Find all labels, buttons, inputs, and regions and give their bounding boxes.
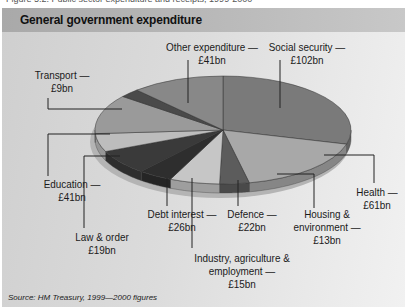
- label-law-order: Law & order£19bn: [66, 231, 138, 257]
- label-debt-interest: Debt interest —£26bn: [142, 208, 223, 234]
- label-other: Other expenditure —£41bn: [158, 41, 266, 67]
- chart-panel: General government expenditure Other exp…: [2, 8, 405, 307]
- slice-side-housing: [220, 183, 250, 193]
- label-health: Health —£61bn: [346, 186, 405, 212]
- figure-caption-text: Figure 5.2: Public sector expenditure an…: [6, 0, 252, 4]
- label-housing: Housing &environment —£13bn: [287, 208, 368, 247]
- source-note: Source: HM Treasury, 1999—2000 figures: [8, 293, 157, 302]
- label-social-security: Social security —£102bn: [262, 41, 352, 67]
- label-industry: Industry, agriculture &employment —£15bn: [184, 252, 301, 291]
- label-education: Education —£41bn: [36, 178, 108, 204]
- label-defence: Defence —£22bn: [221, 208, 284, 234]
- label-transport: Transport —£9bn: [26, 69, 98, 95]
- figure-caption: Figure 5.2: Public sector expenditure an…: [0, 0, 405, 7]
